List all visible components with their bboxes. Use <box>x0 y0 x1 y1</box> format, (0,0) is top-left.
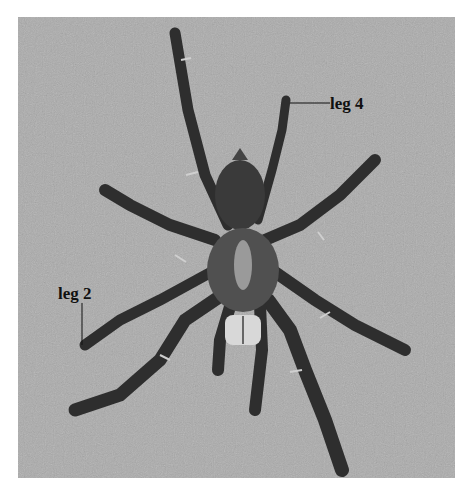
spider-photo: leg 4 leg 2 <box>18 17 455 478</box>
label-leg-2: leg 2 <box>58 285 92 302</box>
spider-illustration <box>18 17 455 478</box>
label-leg-4: leg 4 <box>330 95 364 112</box>
